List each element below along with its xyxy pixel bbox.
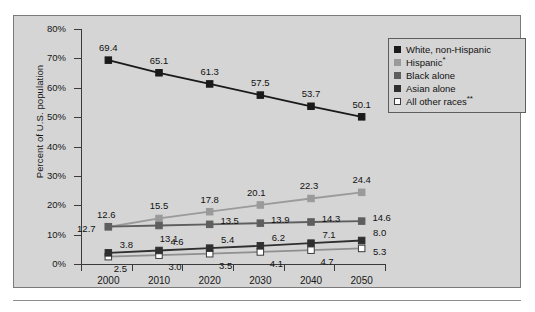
series-marker (308, 240, 315, 247)
data-point-label: 53.7 (302, 88, 321, 99)
data-point-label: 6.2 (272, 231, 285, 242)
series-marker (308, 219, 315, 226)
series-marker (257, 92, 264, 99)
series-marker (156, 222, 163, 229)
y-axis-tick-label: 80% (24, 23, 66, 34)
y-axis-tick-label: 30% (24, 170, 66, 181)
series-marker (358, 245, 365, 252)
legend-swatch-icon (394, 46, 401, 53)
legend-item[interactable]: Asian alone (394, 82, 520, 95)
data-point-label: 57.5 (251, 77, 270, 88)
series-marker (206, 208, 213, 215)
legend-swatch-icon (394, 85, 401, 92)
data-point-label: 65.1 (150, 54, 169, 65)
data-point-label: 50.1 (352, 98, 371, 109)
series-marker (105, 57, 112, 64)
data-point-label: 15.5 (150, 200, 169, 211)
data-point-label: 3.8 (120, 238, 133, 249)
series-marker (156, 215, 163, 222)
legend-item-label: Black alone (406, 70, 455, 81)
data-point-label: 13.5 (220, 215, 239, 226)
series-marker (257, 202, 264, 209)
y-axis-tick-label: 40% (24, 141, 66, 152)
legend: White, non-HispanicHispanic*Black aloneA… (388, 38, 526, 113)
data-point-label: 12.7 (77, 222, 96, 233)
y-axis-tick-label: 0% (24, 258, 66, 269)
figure: Percent of U.S. population 0%10%20%30%40… (0, 0, 535, 312)
data-point-label: 14.6 (372, 212, 391, 223)
legend-item-label: All other races** (406, 96, 473, 107)
data-point-label: 3.5 (219, 259, 232, 270)
data-point-label: 12.6 (97, 208, 116, 219)
data-point-label: 5.4 (221, 234, 234, 245)
data-point-label: 4.1 (270, 257, 283, 268)
y-axis-tick-label: 60% (24, 82, 66, 93)
series-marker (206, 221, 213, 228)
series-marker (156, 70, 163, 77)
data-point-label: 61.3 (200, 65, 219, 76)
series-marker (257, 243, 264, 250)
series-line (108, 241, 361, 253)
series-marker (105, 250, 112, 257)
legend-item-label: White, non-Hispanic (406, 44, 491, 55)
series-marker (105, 223, 112, 230)
data-point-label: 14.3 (322, 212, 341, 223)
series-line (108, 60, 361, 117)
legend-item-label: Hispanic* (406, 57, 446, 68)
legend-swatch-icon (394, 98, 401, 105)
series-marker (206, 245, 213, 252)
series-marker (358, 237, 365, 244)
data-point-label: 17.8 (200, 193, 219, 204)
data-point-label: 4.6 (170, 236, 183, 247)
legend-item-label: Asian alone (406, 83, 456, 94)
y-axis-tick-label: 20% (24, 199, 66, 210)
data-point-label: 69.4 (99, 42, 118, 53)
data-point-label: 24.4 (352, 174, 371, 185)
data-point-label: 8.0 (373, 226, 386, 237)
legend-item[interactable]: White, non-Hispanic (394, 43, 520, 56)
legend-item[interactable]: Hispanic* (394, 56, 520, 69)
legend-swatch-icon (394, 72, 401, 79)
series-marker (156, 247, 163, 254)
y-axis-tick-label: 50% (24, 111, 66, 122)
series-marker (308, 195, 315, 202)
data-point-label: 7.1 (322, 229, 335, 240)
series-marker (358, 114, 365, 121)
series-marker (308, 103, 315, 110)
y-axis-tick-label: 70% (24, 52, 66, 63)
chart-panel: Percent of U.S. population 0%10%20%30%40… (13, 15, 521, 288)
legend-item[interactable]: Black alone (394, 69, 520, 82)
data-point-label: 5.3 (373, 246, 386, 257)
legend-item[interactable]: All other races** (394, 95, 520, 108)
data-point-label: 13.9 (271, 214, 290, 225)
bottom-rule (13, 300, 521, 301)
series-marker (358, 218, 365, 225)
series-marker (257, 220, 264, 227)
series-marker (308, 247, 315, 254)
data-point-label: 3.0 (168, 261, 181, 272)
data-point-label: 2.5 (114, 262, 127, 273)
data-point-label: 20.1 (247, 186, 266, 197)
series-marker (206, 81, 213, 88)
data-point-label: 22.3 (300, 180, 319, 191)
legend-swatch-icon (394, 59, 401, 66)
series-marker (358, 189, 365, 196)
data-point-label: 4.7 (320, 256, 333, 267)
series-marker (257, 249, 264, 256)
y-axis-tick-label: 10% (24, 229, 66, 240)
